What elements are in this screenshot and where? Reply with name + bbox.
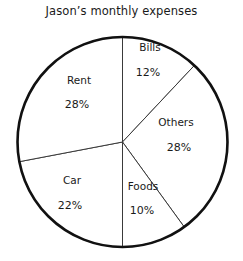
slice-value: 10%	[130, 205, 154, 217]
slice-label: Foods	[128, 180, 159, 192]
slice-value: 12%	[136, 67, 160, 79]
pie-chart-graphic	[0, 0, 243, 261]
slice-value: 22%	[58, 200, 82, 212]
slice-value: 28%	[65, 99, 89, 111]
slice-label: Rent	[67, 74, 91, 86]
pie-chart: Jason’s monthly expenses Bills12%Others2…	[0, 0, 243, 261]
slice-label: Car	[63, 174, 81, 186]
slice-label: Bills	[139, 41, 160, 53]
slice-label: Others	[158, 116, 193, 128]
slice-value: 28%	[167, 142, 191, 154]
